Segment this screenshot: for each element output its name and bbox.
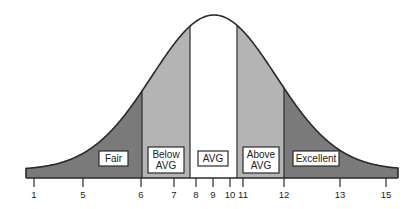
tick-label: 6 — [138, 189, 143, 200]
region-label-avg-text: AVG — [203, 153, 224, 164]
region-label-below-avg: Below AVG — [148, 147, 184, 173]
tick-label: 15 — [381, 189, 392, 200]
region-label-above-avg-line1: Above — [247, 149, 276, 160]
tick-label: 5 — [80, 189, 85, 200]
tick-label: 13 — [335, 189, 346, 200]
tick-label: 7 — [171, 189, 176, 200]
tick-label: 9 — [210, 189, 215, 200]
region-label-below-avg-line2: AVG — [156, 160, 177, 171]
tick-label: 12 — [279, 189, 290, 200]
region-label-above-avg-line2: AVG — [251, 160, 272, 171]
tick-label: 8 — [193, 189, 198, 200]
region-label-below-avg-line1: Below — [152, 149, 180, 160]
bell-curve-diagram: Fair Below AVG AVG Above AVG Excellent 1… — [0, 0, 414, 209]
region-label-fair-text: Fair — [105, 153, 123, 164]
region-label-excellent: Excellent — [293, 151, 339, 166]
x-axis-ticks: 1567891011121315 — [31, 178, 391, 200]
region-label-excellent-text: Excellent — [296, 153, 337, 164]
tick-label: 10 — [225, 189, 236, 200]
tick-label: 1 — [31, 189, 36, 200]
tick-label: 11 — [238, 189, 248, 200]
region-label-avg: AVG — [198, 151, 228, 166]
region-label-fair: Fair — [99, 151, 128, 166]
region-label-above-avg: Above AVG — [243, 147, 279, 173]
